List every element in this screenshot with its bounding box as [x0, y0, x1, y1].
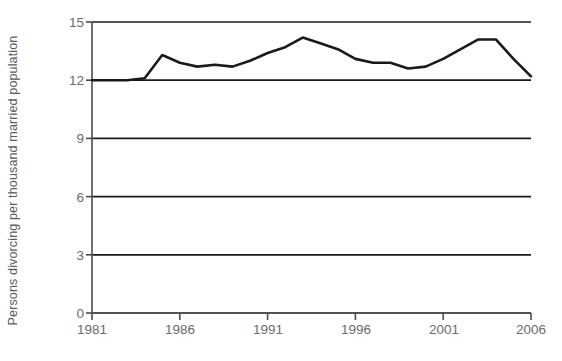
data-line-divorce-rate	[92, 38, 531, 81]
x-tick-marks-group	[92, 313, 531, 320]
y-tick-marks-group	[86, 22, 92, 313]
divorce-rate-line-chart: Persons divorcing per thousand married p…	[0, 0, 562, 361]
gridlines-group	[92, 22, 531, 313]
plot-area	[0, 0, 562, 361]
